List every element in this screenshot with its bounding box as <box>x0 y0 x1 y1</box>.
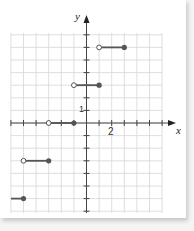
y-axis-arrow-icon <box>84 15 90 23</box>
closed-endpoint <box>71 120 76 125</box>
x-axis-arrow-icon <box>168 120 176 126</box>
open-endpoint <box>72 83 77 88</box>
closed-endpoint <box>21 196 26 201</box>
x-tick-label-2: 2 <box>108 126 114 137</box>
closed-endpoint <box>97 83 102 88</box>
y-tick-label-1: 1 <box>79 104 84 114</box>
x-axis-label: x <box>176 124 181 136</box>
open-endpoint <box>97 45 102 50</box>
closed-endpoint <box>46 158 51 163</box>
closed-endpoint <box>122 45 127 50</box>
y-axis-label: y <box>75 10 80 22</box>
open-endpoint <box>46 121 51 126</box>
step-function-plot <box>0 0 194 231</box>
open-endpoint <box>21 158 26 163</box>
